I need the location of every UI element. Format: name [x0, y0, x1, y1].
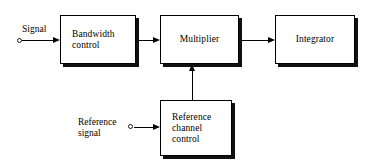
connector-reference-channel-to-multiplier — [192, 71, 193, 100]
arrowhead-multiplier-to-integrator-icon — [268, 37, 275, 43]
block-integrator-label: Integrator — [296, 34, 334, 45]
block-reference-channel-control-label: Reference channel control — [161, 112, 211, 145]
block-reference-channel-control: Reference channel control — [160, 100, 232, 156]
block-bandwidth-control-label: Bandwidth control — [61, 29, 115, 51]
terminal-reference-signal — [128, 124, 133, 129]
arrowhead-reference-channel-to-multiplier-icon — [189, 64, 195, 71]
connector-multiplier-to-integrator — [239, 40, 268, 41]
block-multiplier: Multiplier — [160, 15, 239, 64]
block-diagram: Signal Bandwidth control Multiplier Inte… — [0, 0, 367, 166]
connector-bandwidth-to-multiplier — [136, 40, 154, 41]
arrowhead-reference-signal-to-reference-channel-icon — [153, 124, 160, 130]
arrowhead-signal-to-bandwidth-icon — [53, 37, 60, 43]
terminal-signal — [17, 38, 22, 43]
terminal-label-signal: Signal — [22, 24, 46, 35]
block-bandwidth-control: Bandwidth control — [60, 15, 136, 64]
connector-signal-to-bandwidth — [22, 40, 54, 41]
block-integrator: Integrator — [275, 15, 355, 64]
connector-reference-signal-to-reference-channel — [134, 127, 154, 128]
terminal-label-reference-signal: Reference signal — [78, 117, 117, 139]
arrowhead-bandwidth-to-multiplier-icon — [153, 37, 160, 43]
block-multiplier-label: Multiplier — [180, 34, 220, 45]
